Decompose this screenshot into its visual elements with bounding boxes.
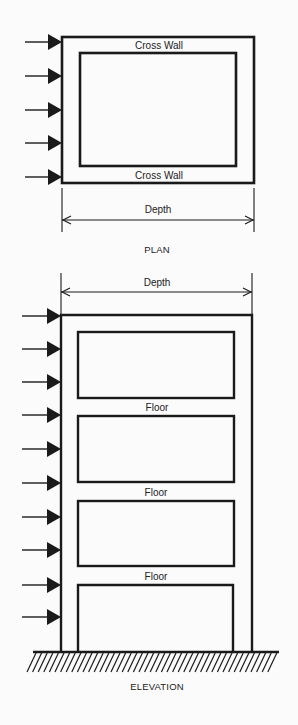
- plan-inner-wall: [80, 53, 236, 166]
- plan-depth-label: Depth: [145, 205, 172, 215]
- hatch-line: [223, 653, 232, 672]
- story-opening-4: [78, 585, 233, 652]
- hatch-line: [133, 653, 142, 672]
- hatch-line: [173, 653, 182, 672]
- elevation-caption: ELEVATION: [130, 682, 184, 692]
- floor-label-3: Floor: [145, 572, 168, 582]
- load-arrow-head-icon: [47, 374, 61, 390]
- hatch-line: [77, 653, 86, 672]
- plan-top-cross-wall-label: Cross Wall: [135, 41, 183, 51]
- hatch-line: [251, 653, 260, 672]
- hatch-line: [33, 653, 42, 672]
- load-arrow-head-icon: [47, 407, 61, 423]
- load-arrow-head-icon: [48, 68, 62, 84]
- load-arrow-head-icon: [47, 308, 61, 324]
- hatch-line: [83, 653, 92, 672]
- hatch-line: [268, 653, 277, 672]
- load-arrow-head-icon: [47, 542, 61, 558]
- elevation-view: [22, 273, 279, 672]
- floor-label-2: Floor: [145, 488, 168, 498]
- story-opening-1: [78, 332, 234, 398]
- hatch-line: [161, 653, 170, 672]
- plan-view: [25, 34, 254, 232]
- hatch-line: [156, 653, 165, 672]
- hatch-line: [55, 653, 64, 672]
- hatch-line: [262, 653, 271, 672]
- load-arrow-head-icon: [48, 102, 62, 118]
- hatch-line: [150, 653, 159, 672]
- hatch-line: [217, 653, 226, 672]
- hatch-line: [100, 653, 109, 672]
- plan-caption: PLAN: [144, 245, 170, 255]
- hatch-line: [122, 653, 131, 672]
- hatch-line: [94, 653, 103, 672]
- hatch-line: [105, 653, 114, 672]
- load-arrow-head-icon: [47, 509, 61, 525]
- hatch-line: [139, 653, 148, 672]
- load-arrow-head-icon: [47, 475, 61, 491]
- hatch-line: [201, 653, 210, 672]
- hatch-line: [66, 653, 75, 672]
- hatch-line: [38, 653, 47, 672]
- elevation-depth-label: Depth: [144, 278, 171, 288]
- plan-bottom-cross-wall-label: Cross Wall: [135, 171, 183, 181]
- load-arrow-head-icon: [48, 34, 62, 50]
- hatch-line: [145, 653, 154, 672]
- hatch-line: [117, 653, 126, 672]
- hatch-line: [72, 653, 81, 672]
- story-opening-2: [78, 416, 234, 482]
- hatch-line: [184, 653, 193, 672]
- hatch-line: [89, 653, 98, 672]
- story-opening-3: [78, 501, 234, 566]
- floor-label-1: Floor: [146, 403, 169, 413]
- elevation-outer-frame: [61, 315, 252, 652]
- hatch-line: [128, 653, 137, 672]
- ground-hatching: [27, 653, 277, 672]
- hatch-line: [44, 653, 53, 672]
- load-arrow-head-icon: [47, 341, 61, 357]
- load-arrow-head-icon: [47, 609, 61, 625]
- load-arrow-head-icon: [47, 441, 61, 457]
- hatch-line: [111, 653, 120, 672]
- hatch-line: [212, 653, 221, 672]
- hatch-line: [167, 653, 176, 672]
- hatch-line: [189, 653, 198, 672]
- hatch-line: [61, 653, 70, 672]
- hatch-line: [229, 653, 238, 672]
- hatch-line: [245, 653, 254, 672]
- load-arrow-head-icon: [48, 135, 62, 151]
- hatch-line: [195, 653, 204, 672]
- hatch-line: [49, 653, 58, 672]
- hatch-line: [206, 653, 215, 672]
- plan-outer-wall: [62, 37, 254, 183]
- hatch-line: [178, 653, 187, 672]
- load-arrow-head-icon: [47, 577, 61, 593]
- hatch-line: [257, 653, 266, 672]
- hatch-line: [240, 653, 249, 672]
- hatch-line: [27, 653, 36, 672]
- hatch-line: [234, 653, 243, 672]
- structural-diagram: [0, 0, 298, 725]
- load-arrow-head-icon: [48, 169, 62, 185]
